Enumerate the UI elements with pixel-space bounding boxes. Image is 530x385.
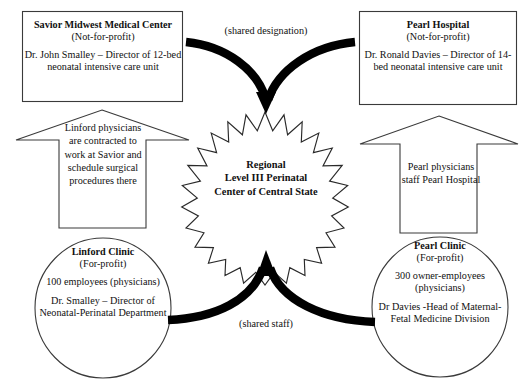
pearl-clinic-employees: 300 owner-employees (physicians) [395, 270, 485, 293]
diagram-canvas: Savior Midwest Medical Center (Not-for-p… [0, 0, 530, 385]
shared-designation-label: (shared designation) [205, 25, 327, 37]
center-node-label: Regional Level III Perinatal Center of C… [205, 158, 327, 198]
linford-clinic-detail: Dr. Smalley – Director of Neonatal-Perin… [39, 295, 166, 318]
linford-clinic-status: (For-profit) [80, 258, 127, 269]
curved-arrow-savior-to-center [186, 42, 266, 100]
pearl-clinic-label: Pearl Clinic (For-profit) 300 owner-empl… [371, 240, 509, 325]
pearl-clinic-detail: Dr Davies -Head of Maternal-Fetal Medici… [379, 301, 502, 324]
pearl-clinic-status: (For-profit) [417, 252, 464, 263]
linford-clinic-employees: 100 employees (physicians) [46, 276, 160, 287]
center-line-1: Regional [246, 159, 285, 170]
shared-staff-label: (shared staff) [212, 318, 320, 330]
curved-arrow-top-arrowhead [256, 92, 276, 114]
block-arrow-right-label: Pearl physicians staff Pearl Hospital [398, 160, 484, 187]
pearl-hospital-detail: Dr. Ronald Davies – Director of 14-bed n… [365, 49, 512, 72]
center-line-3: Center of Central State [214, 186, 317, 197]
pearl-clinic-name: Pearl Clinic [414, 240, 466, 251]
pearl-hospital-status: (Not-for-profit) [406, 31, 469, 42]
savior-hospital-name: Savior Midwest Medical Center [34, 19, 172, 30]
linford-clinic-name: Linford Clinic [72, 246, 135, 257]
savior-hospital-detail: Dr. John Smalley – Director of 12-bed ne… [25, 49, 181, 72]
center-line-2: Level III Perinatal [225, 172, 308, 183]
pearl-hospital-name: Pearl Hospital [407, 19, 470, 30]
block-arrow-left-label: Linford physicians are contracted to wor… [62, 121, 144, 187]
linford-clinic-label: Linford Clinic (For-profit) 100 employee… [37, 246, 169, 319]
savior-hospital-status: (Not-for-profit) [71, 31, 134, 42]
savior-hospital-label: Savior Midwest Medical Center (Not-for-p… [24, 19, 182, 73]
pearl-hospital-label: Pearl Hospital (Not-for-profit) Dr. Rona… [361, 19, 515, 73]
curved-arrow-pearl-hospital-to-center [268, 42, 355, 100]
